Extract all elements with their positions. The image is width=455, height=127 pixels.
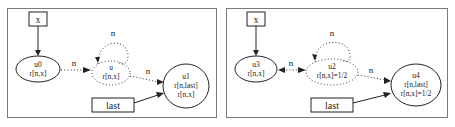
right-edge-label-self-loop: n xyxy=(330,28,335,38)
left-edge-label-u-to-u1: n xyxy=(146,66,151,76)
right-node-u4-id: u4 xyxy=(412,71,420,80)
left-node-u1-pred1: r[n,last] xyxy=(174,81,198,90)
left-pointer-x-label: x xyxy=(36,14,41,25)
right-node-u3-pred: r[n,x] xyxy=(248,69,265,78)
shape-graph-figure: x u0 r[n,x] n u r[n,x] n n u1 r[n,last] … xyxy=(0,0,455,127)
right-pointer-x-label: x xyxy=(254,14,259,25)
right-pointer-last-label: last xyxy=(325,100,339,111)
left-pointer-last-label: last xyxy=(106,100,120,111)
left-node-u0-pred: r[n,x] xyxy=(30,69,47,78)
right-edge-label-u2-to-u4: n xyxy=(369,65,374,75)
left-panel: x u0 r[n,x] n u r[n,x] n n u1 r[n,last] … xyxy=(8,9,217,118)
right-node-u4-pred2: r[n,x]=1/2 xyxy=(401,89,432,98)
right-edge-label-u3-to-u2: n xyxy=(289,58,294,68)
right-node-u4-pred1: r[n,last] xyxy=(404,80,428,89)
right-node-u3-id: u3 xyxy=(252,60,260,69)
right-panel: x u3 r[n,x] n u2 r[n,x]=1/2 n n u4 r[n,l… xyxy=(227,9,448,118)
left-node-u1-id: u1 xyxy=(182,72,190,81)
left-edge-label-self-loop: n xyxy=(111,28,116,38)
right-node-u2-id: u2 xyxy=(328,62,336,71)
left-edge-label-u0-to-u: n xyxy=(72,58,77,68)
left-node-u0-id: u0 xyxy=(34,60,42,69)
right-node-u2-pred: r[n,x]=1/2 xyxy=(317,71,348,80)
left-node-u1-pred2: r[n,x] xyxy=(178,90,195,99)
left-node-u-id: u xyxy=(109,63,113,72)
left-node-u-pred: r[n,x] xyxy=(103,72,120,81)
